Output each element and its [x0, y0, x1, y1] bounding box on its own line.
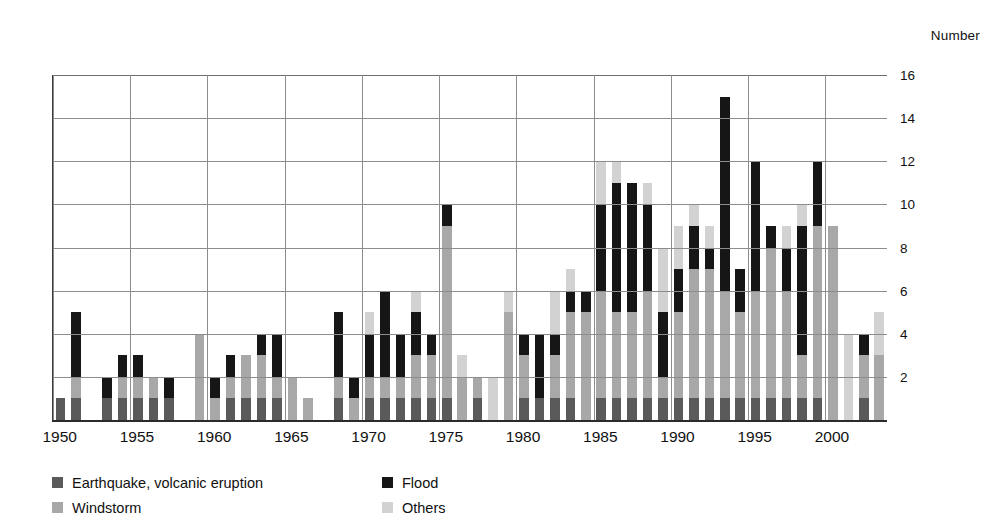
bar-segment-windstorm-1965	[288, 377, 298, 420]
bar-segment-windstorm-1956	[149, 377, 159, 399]
bar-segment-flood-1968	[334, 312, 344, 377]
bar-segment-flood-1960	[210, 377, 220, 399]
x-tick-label-1985: 1985	[583, 428, 617, 446]
bar-segment-earthquake-2002	[859, 398, 869, 420]
bar-segment-windstorm-1977	[473, 377, 483, 399]
bar-segment-others-1982	[550, 291, 560, 334]
bar-segment-windstorm-1955	[133, 377, 143, 399]
y-tick-label-4: 4	[900, 326, 940, 341]
bar-segment-windstorm-1996	[766, 248, 776, 399]
bar-segment-earthquake-1972	[396, 398, 406, 420]
bar-2003	[874, 312, 884, 420]
bar-segment-flood-1982	[550, 334, 560, 356]
bar-segment-windstorm-1976	[457, 377, 467, 420]
bar-segment-earthquake-1982	[550, 398, 560, 420]
bar-1968	[334, 312, 344, 420]
bar-segment-flood-1969	[349, 377, 359, 399]
x-tick-label-1950: 1950	[42, 428, 76, 446]
bar-segment-windstorm-1983	[566, 312, 576, 398]
bar-segment-windstorm-1987	[627, 312, 637, 398]
bar-segment-windstorm-1989	[658, 377, 668, 399]
bar-segment-windstorm-2003	[874, 355, 884, 420]
bar-segment-others-1991	[689, 204, 699, 226]
bar-1962	[241, 355, 251, 420]
bar-segment-windstorm-1961	[226, 377, 236, 399]
gridline-x-1995	[748, 75, 749, 420]
bar-segment-earthquake-1992	[705, 398, 715, 420]
bar-1950	[56, 398, 66, 420]
bar-segment-flood-1951	[71, 312, 81, 377]
x-tick-label-1955: 1955	[120, 428, 154, 446]
bar-segment-others-1992	[705, 226, 715, 248]
bar-segment-earthquake-1989	[658, 398, 668, 420]
bar-segment-flood-1964	[272, 334, 282, 377]
legend-item-earthquake: Earthquake, volcanic eruption	[52, 475, 382, 491]
bar-segment-earthquake-1950	[56, 398, 66, 420]
legend-swatch-icon-flood	[382, 477, 393, 488]
bar-1979	[504, 291, 514, 420]
bar-segment-windstorm-1951	[71, 377, 81, 399]
bar-1992	[705, 226, 715, 420]
legend-label-others: Others	[402, 500, 446, 516]
y-tick-label-14: 14	[900, 111, 940, 126]
bar-1955	[133, 355, 143, 420]
bar-1970	[365, 312, 375, 420]
y-axis-unit-caption: Number	[931, 28, 980, 43]
gridline-x-2000	[825, 75, 826, 420]
bar-segment-earthquake-1973	[411, 398, 421, 420]
gridline-y-10	[53, 204, 887, 205]
bar-1993	[720, 97, 730, 420]
bar-1960	[210, 377, 220, 420]
bar-1961	[226, 355, 236, 420]
y-tick-label-16: 16	[900, 68, 940, 83]
bar-1978	[488, 377, 498, 420]
bar-segment-others-1989	[658, 248, 668, 313]
bar-1982	[550, 291, 560, 420]
bar-segment-windstorm-1986	[612, 312, 622, 398]
bar-1997	[782, 226, 792, 420]
bar-segment-flood-1953	[102, 377, 112, 399]
bar-segment-earthquake-1996	[766, 398, 776, 420]
bar-segment-others-1970	[365, 312, 375, 334]
bar-segment-earthquake-1990	[674, 398, 684, 420]
bar-segment-flood-1992	[705, 248, 715, 270]
bar-segment-flood-1975	[442, 204, 452, 226]
x-tick-label-1965: 1965	[274, 428, 308, 446]
gridline-y-8	[53, 248, 887, 249]
gridline-x-1980	[516, 75, 517, 420]
bar-segment-earthquake-1955	[133, 398, 143, 420]
bar-segment-earthquake-1983	[566, 398, 576, 420]
legend-label-windstorm: Windstorm	[72, 500, 141, 516]
bar-1965	[288, 377, 298, 420]
legend-swatch-icon-windstorm	[52, 502, 63, 513]
gridline-x-1990	[671, 75, 672, 420]
bar-segment-flood-1997	[782, 248, 792, 291]
gridline-y-12	[53, 161, 887, 162]
bar-segment-others-1976	[457, 355, 467, 377]
bar-segment-flood-1999	[813, 161, 823, 226]
gridline-y-14	[53, 118, 887, 119]
bar-1954	[118, 355, 128, 420]
bar-segment-others-1978	[488, 377, 498, 420]
bar-segment-flood-1972	[396, 334, 406, 377]
bar-segment-flood-1981	[535, 334, 545, 399]
bar-segment-windstorm-2000	[828, 226, 838, 420]
bar-segment-windstorm-1971	[380, 377, 390, 399]
bar-segment-flood-1961	[226, 355, 236, 377]
bar-segment-earthquake-1997	[782, 398, 792, 420]
bar-segment-windstorm-1984	[581, 312, 591, 420]
x-tick-label-1980: 1980	[506, 428, 540, 446]
bar-segment-earthquake-1993	[720, 398, 730, 420]
bar-1957	[164, 377, 174, 420]
bar-segment-earthquake-1987	[627, 398, 637, 420]
bar-1984	[581, 291, 591, 420]
bar-segment-flood-1995	[751, 161, 761, 290]
bar-segment-windstorm-1964	[272, 377, 282, 399]
bar-segment-windstorm-1990	[674, 312, 684, 398]
bar-segment-earthquake-1986	[612, 398, 622, 420]
x-tick-label-1970: 1970	[351, 428, 385, 446]
bar-segment-flood-1980	[519, 334, 529, 356]
bar-segment-earthquake-1968	[334, 398, 344, 420]
bar-segment-flood-2002	[859, 334, 869, 356]
bar-segment-others-1983	[566, 269, 576, 291]
